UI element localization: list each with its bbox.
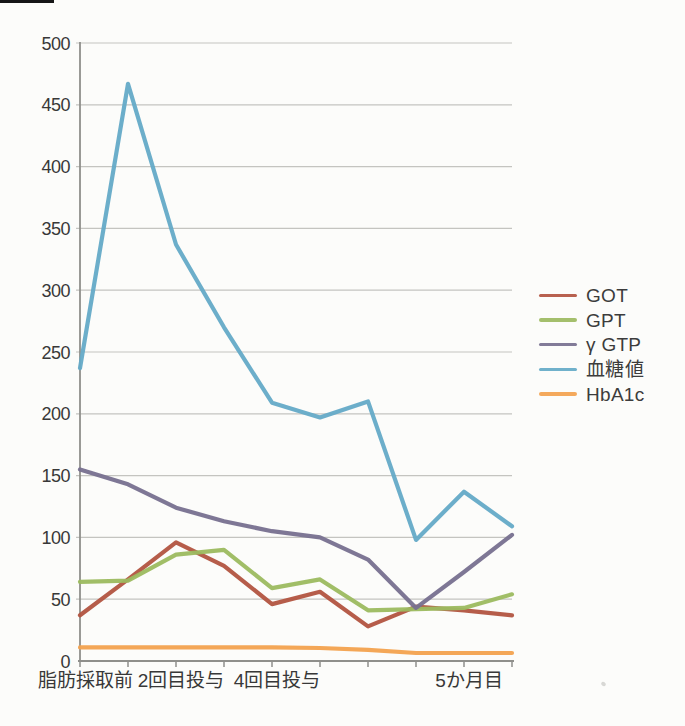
x-axis-label: 4回目投与	[234, 670, 321, 691]
legend-item: 血糖値	[539, 357, 645, 382]
series-line-GPT	[80, 550, 512, 611]
series-line-γ GTP	[80, 469, 512, 608]
legend-label: GPT	[586, 311, 626, 330]
y-axis-tick-label: 100	[41, 528, 70, 548]
legend-item: GOT	[539, 283, 645, 308]
legend-item: HbA1c	[539, 382, 645, 407]
legend-color-swatch	[539, 392, 577, 396]
legend-color-swatch	[539, 294, 577, 298]
x-axis-label: 脂肪採取前	[38, 670, 133, 691]
legend-item: GPT	[539, 308, 645, 333]
chart-legend: GOTGPTγ GTP血糖値HbA1c	[539, 283, 645, 406]
legend-color-swatch	[539, 368, 577, 372]
legend-label: GOT	[586, 286, 628, 305]
legend-color-swatch	[539, 318, 577, 322]
y-axis-tick-label: 250	[41, 343, 70, 363]
legend-color-swatch	[539, 343, 577, 347]
legend-label: 血糖値	[586, 360, 644, 379]
legend-label: HbA1c	[586, 385, 645, 404]
legend-item: γ GTP	[539, 332, 645, 357]
legend-label: γ GTP	[586, 335, 641, 354]
scan-artifact	[0, 0, 54, 3]
y-axis-tick-label: 500	[41, 34, 70, 54]
chart-figure: 050100150200250300350400450500脂肪採取前2回目投与…	[0, 0, 685, 726]
y-axis-tick-label: 350	[41, 219, 70, 239]
y-axis-tick-label: 0	[60, 652, 70, 672]
series-line-血糖値	[80, 84, 512, 540]
y-axis-tick-label: 150	[41, 466, 70, 486]
x-axis-label: 5か月目	[435, 670, 503, 691]
y-axis-tick-label: 200	[41, 404, 70, 424]
y-axis-tick-label: 50	[51, 590, 71, 610]
series-line-HbA1c	[80, 647, 512, 653]
x-axis-label: 2回目投与	[138, 670, 225, 691]
y-axis-tick-label: 400	[41, 157, 70, 177]
y-axis-tick-label: 450	[41, 95, 70, 115]
y-axis-tick-label: 300	[41, 281, 70, 301]
